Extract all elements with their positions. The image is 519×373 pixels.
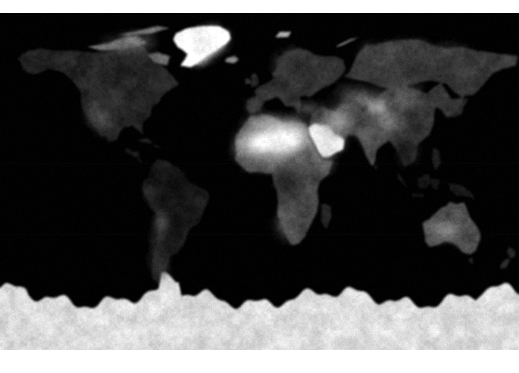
figure-page	[0, 0, 519, 373]
figure-top-margin	[0, 0, 519, 13]
map-raster-canvas	[0, 13, 519, 350]
world-albedo-map	[0, 13, 519, 350]
figure-bottom-margin	[0, 350, 519, 373]
